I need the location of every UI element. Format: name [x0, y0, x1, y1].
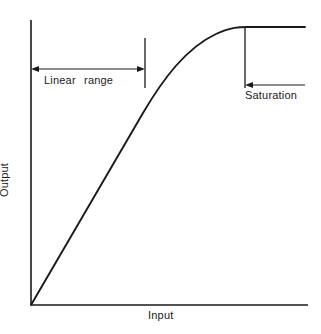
figure-canvas [0, 0, 321, 334]
saturation-label: Saturation [245, 89, 297, 101]
linear-range-label: Linear range [44, 74, 113, 86]
x-axis-label: Input [148, 309, 173, 321]
transfer-characteristic-figure: Linear range Saturation Input Output [0, 0, 321, 334]
y-axis-label: Output [0, 163, 10, 197]
saturation-arrow [245, 82, 305, 88]
linear-range-arrow [31, 66, 145, 72]
